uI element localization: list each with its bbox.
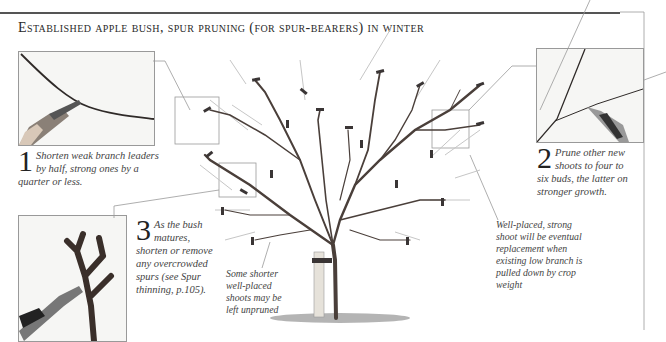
new-shoots	[200, 30, 480, 240]
tree-tie	[312, 258, 332, 263]
ground-shadow	[270, 313, 410, 323]
tree-branches	[205, 72, 480, 318]
